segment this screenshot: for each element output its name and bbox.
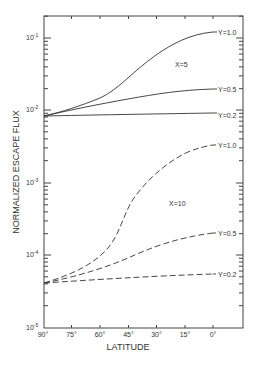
- svg-text:10-1: 10-1: [26, 32, 38, 41]
- svg-text:10-2: 10-2: [26, 104, 38, 113]
- label-x5-y0.2: Y=0.2: [218, 112, 237, 119]
- label-x5-y0.5: Y=0.5: [218, 86, 237, 93]
- label-x10-y1.0: Y=1.0: [218, 142, 237, 149]
- series-x5-y0.2: [44, 113, 213, 116]
- series-x5-y0.5: [44, 89, 213, 116]
- svg-text:10-4: 10-4: [26, 249, 38, 258]
- label-x10-y0.5: Y=0.5: [218, 230, 237, 237]
- annotation-x5: X=5: [175, 61, 188, 68]
- series-x10-y0.5: [44, 233, 213, 283]
- label-x5-y1.0: Y=1.0: [218, 29, 237, 36]
- svg-text:60°: 60°: [95, 331, 106, 338]
- svg-text:45°: 45°: [123, 331, 134, 338]
- svg-text:90°: 90°: [38, 331, 49, 338]
- y-axis-title: NORMALIZED ESCAPE FLUX: [11, 110, 21, 234]
- annotation-x10: X=10: [169, 200, 186, 207]
- escape-flux-chart: Y=1.0 Y=0.5 Y=0.2 Y=1.0 Y=0.5 Y=0.2 X=5 …: [0, 0, 257, 368]
- series-x10-y1.0: [44, 145, 213, 283]
- svg-text:10-5: 10-5: [26, 322, 38, 331]
- y-ticks: [44, 16, 243, 306]
- svg-text:30°: 30°: [151, 331, 162, 338]
- svg-text:0°: 0°: [210, 331, 217, 338]
- series-x5-y1.0: [44, 32, 213, 116]
- svg-text:15°: 15°: [180, 331, 191, 338]
- x-ticks: [72, 16, 214, 328]
- label-x10-y0.2: Y=0.2: [218, 271, 237, 278]
- x-axis-title: LATITUDE: [107, 342, 150, 352]
- svg-text:75°: 75°: [66, 331, 77, 338]
- y-tick-labels: 10-1 10-2 10-3 10-4 10-5: [26, 32, 38, 331]
- svg-text:10-3: 10-3: [26, 177, 38, 186]
- x-tick-labels: 90° 75° 60° 45° 30° 15° 0°: [38, 331, 217, 338]
- series-x10-y0.2: [44, 274, 213, 283]
